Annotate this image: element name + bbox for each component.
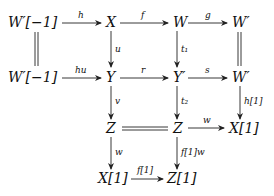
label-h: h — [78, 10, 84, 20]
label-u: u — [115, 44, 121, 54]
label-w-vertical: w — [115, 147, 123, 157]
label-h1: h[1] — [244, 96, 263, 106]
node-z-shift1: Z[1] — [166, 170, 197, 186]
label-f1: f[1] — [136, 165, 154, 175]
node-w-prime-shift-minus1-bottom: W′[−1] — [8, 69, 58, 85]
label-hu: hu — [75, 65, 87, 75]
label-t2: t₂ — [181, 96, 189, 106]
node-z-left: Z — [105, 120, 116, 136]
label-t1: t₁ — [181, 44, 188, 54]
label-g: g — [205, 10, 211, 20]
node-y-prime: Y′ — [173, 69, 186, 85]
node-x-shift1-right: X[1] — [228, 120, 259, 136]
label-w-horizontal: w — [203, 115, 211, 125]
node-w-prime-middle: W′ — [232, 69, 250, 85]
node-w: W — [173, 14, 189, 30]
node-x: X — [105, 14, 117, 30]
label-v: v — [115, 96, 120, 106]
commutative-diagram: W′[−1] X W W′ W′[−1] Y Y′ W′ Z Z X[1] X[… — [0, 0, 274, 196]
label-s: s — [205, 65, 210, 75]
node-w-prime-shift-minus1-top: W′[−1] — [8, 14, 58, 30]
node-y: Y — [106, 69, 117, 85]
node-z-right: Z — [172, 120, 183, 136]
label-f1w: f[1]w — [180, 147, 205, 157]
label-r: r — [141, 65, 146, 75]
node-x-shift1-bottom: X[1] — [97, 170, 128, 186]
label-f: f — [140, 10, 146, 20]
node-w-prime-top: W′ — [232, 14, 250, 30]
